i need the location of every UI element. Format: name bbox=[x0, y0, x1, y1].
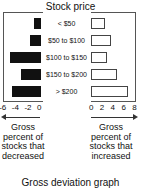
tick-label: -4 bbox=[12, 103, 19, 112]
bar-increased bbox=[91, 18, 105, 29]
category-label: $100 to $150 bbox=[42, 54, 91, 61]
chart-title: Stock price bbox=[0, 1, 141, 12]
tick-label: 0 bbox=[89, 103, 93, 112]
tick-label: 6 bbox=[121, 103, 125, 112]
bar-decreased bbox=[21, 69, 41, 80]
bar-decreased bbox=[34, 18, 41, 29]
right-arrow-head-icon bbox=[133, 114, 138, 120]
tick-label: 0 bbox=[37, 103, 41, 112]
category-label: $50 to $100 bbox=[42, 37, 91, 44]
tick-label: 4 bbox=[111, 103, 115, 112]
left-arrow-head-icon bbox=[1, 114, 6, 120]
right-axis-label: Gross percent of stocks that increased bbox=[88, 123, 134, 161]
left-arrow bbox=[4, 117, 40, 118]
bar-increased bbox=[91, 69, 117, 80]
bar-increased bbox=[91, 52, 107, 63]
category-label: $150 to $200 bbox=[42, 71, 91, 78]
right-arrow bbox=[91, 117, 133, 118]
bar-increased bbox=[91, 86, 128, 97]
tick-label: 8 bbox=[132, 103, 136, 112]
left-axis-label: Gross percent of stocks that decreased bbox=[0, 123, 46, 161]
tick-label: -2 bbox=[24, 103, 31, 112]
category-label: < $50 bbox=[42, 20, 91, 27]
tick-label: -6 bbox=[0, 103, 6, 112]
chart-caption: Gross deviation graph bbox=[0, 177, 141, 188]
bar-decreased bbox=[10, 52, 41, 63]
bar-decreased bbox=[12, 86, 41, 97]
bar-decreased bbox=[30, 35, 41, 46]
tick-label: 2 bbox=[100, 103, 104, 112]
bar-increased bbox=[91, 35, 111, 46]
category-label: > $200 bbox=[42, 88, 91, 95]
